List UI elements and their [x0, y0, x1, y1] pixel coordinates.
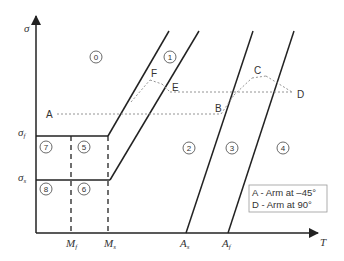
- region-6: 6: [78, 183, 90, 195]
- point-f-label: F: [151, 68, 157, 79]
- region-0: 0: [90, 51, 102, 63]
- region-2: 2: [183, 142, 195, 154]
- legend: A - Arm at –45° D - Arm at 90°: [249, 185, 327, 212]
- svg-text:1: 1: [168, 53, 173, 62]
- martensite-start-stress-line: [110, 31, 199, 180]
- austenite-start-line: [186, 31, 253, 233]
- sigma-f-tick: σf: [18, 126, 26, 140]
- region-1: 1: [164, 51, 176, 63]
- region-7: 7: [40, 141, 52, 153]
- svg-text:0: 0: [94, 53, 99, 62]
- point-b-label: B: [215, 103, 222, 114]
- svg-text:8: 8: [44, 185, 49, 194]
- as-tick: As: [179, 237, 190, 251]
- region-8: 8: [40, 183, 52, 195]
- svg-text:6: 6: [82, 185, 87, 194]
- legend-item-d: D - Arm at 90°: [252, 199, 312, 210]
- svg-text:3: 3: [230, 144, 235, 153]
- region-5: 5: [78, 141, 90, 153]
- sigma-s-tick: σs: [18, 171, 26, 185]
- svg-text:4: 4: [281, 144, 286, 153]
- point-a-label: A: [46, 109, 53, 120]
- af-tick: Af: [221, 237, 232, 251]
- region-3: 3: [226, 142, 238, 154]
- ms-tick: Ms: [103, 237, 116, 251]
- region-4: 4: [277, 142, 289, 154]
- legend-item-a: A - Arm at –45°: [252, 187, 316, 198]
- point-e-label: E: [172, 82, 179, 93]
- martensite-finish-stress-line: [108, 31, 169, 136]
- point-d-label: D: [297, 89, 304, 100]
- svg-text:5: 5: [82, 143, 87, 152]
- svg-text:2: 2: [187, 144, 192, 153]
- phase-diagram: σ T σf σs Mf Ms As Af 0 1 2 3 4 5 6 7 8 …: [0, 0, 344, 261]
- svg-text:7: 7: [44, 143, 49, 152]
- mf-tick: Mf: [65, 237, 78, 251]
- x-axis-label: T: [320, 236, 327, 248]
- y-axis-label: σ: [24, 22, 30, 34]
- point-c-label: C: [254, 65, 261, 76]
